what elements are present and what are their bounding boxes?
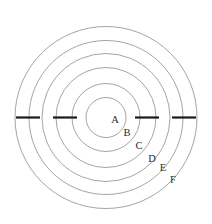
ring-label-b: B bbox=[123, 127, 130, 138]
ring-label-e: E bbox=[160, 162, 166, 173]
ring-label-d: D bbox=[148, 153, 156, 164]
ring-label-f: F bbox=[170, 174, 176, 185]
ring-label-c: C bbox=[135, 140, 142, 151]
diagram-canvas: A B C D E F bbox=[0, 0, 212, 224]
concentric-circles-diagram: A B C D E F bbox=[0, 0, 212, 224]
diagram-background bbox=[0, 0, 212, 224]
ring-label-a: A bbox=[111, 114, 119, 125]
